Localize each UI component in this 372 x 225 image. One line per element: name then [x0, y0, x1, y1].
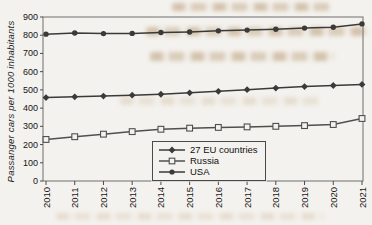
data-point-27-eu-countries [186, 89, 193, 96]
data-point-usa [129, 31, 134, 36]
data-point-russia [330, 122, 336, 128]
x-axis-tick-label: 2014 [155, 187, 166, 208]
x-axis-tick-label: 2013 [127, 187, 138, 208]
legend-label: 27 EU countries [190, 144, 258, 155]
data-point-russia [101, 131, 107, 137]
y-axis-tick-label: 500 [23, 85, 38, 95]
legend-marker-diamond-filled-icon [157, 145, 187, 155]
x-axis-tick-label: 2012 [98, 187, 109, 208]
y-axis-tick-label: 600 [23, 67, 38, 77]
x-axis-tick-label: 2010 [41, 187, 52, 208]
data-point-27-eu-countries [129, 92, 136, 99]
data-point-27-eu-countries [244, 86, 251, 93]
line-chart-plot: 0100200300400500600700800900201020112012… [0, 0, 372, 225]
data-point-russia [302, 123, 308, 129]
data-point-usa [72, 30, 77, 35]
x-axis-tick-label: 2020 [328, 187, 339, 208]
data-point-usa [244, 27, 249, 32]
data-point-27-eu-countries [272, 85, 279, 92]
data-point-russia [72, 134, 78, 140]
data-point-usa [302, 25, 307, 30]
y-axis-tick-label: 400 [23, 103, 38, 113]
x-axis-tick-label: 2016 [213, 187, 224, 208]
data-point-usa [43, 31, 48, 36]
data-point-27-eu-countries [100, 93, 107, 100]
y-axis-tick-label: 100 [23, 158, 38, 168]
y-axis-tick-label: 800 [23, 30, 38, 40]
y-axis-tick-label: 200 [23, 140, 38, 150]
chart-legend: 27 EU countriesRussiaUSA [152, 141, 266, 181]
data-point-russia [158, 126, 164, 132]
data-point-usa [101, 31, 106, 36]
legend-label: USA [190, 166, 210, 177]
data-point-russia [129, 129, 135, 135]
data-point-usa [187, 29, 192, 34]
data-point-27-eu-countries [215, 88, 222, 95]
diamond-filled-glyph [169, 146, 176, 153]
circle-filled-glyph [169, 169, 174, 174]
legend-entry: Russia [157, 155, 258, 166]
data-point-27-eu-countries [330, 82, 337, 89]
data-point-usa [158, 30, 163, 35]
y-axis-tick-label: 0 [33, 176, 38, 186]
data-point-usa [359, 21, 364, 26]
x-axis-tick-label: 2017 [242, 187, 253, 208]
data-point-russia [244, 124, 250, 130]
y-axis-tick-label: 700 [23, 48, 38, 58]
data-point-27-eu-countries [43, 94, 50, 101]
data-point-usa [273, 27, 278, 32]
series-line-usa [46, 24, 362, 34]
legend-label: Russia [190, 155, 219, 166]
square-open-glyph [169, 158, 175, 164]
data-point-27-eu-countries [158, 91, 165, 98]
data-point-russia [187, 125, 193, 131]
x-axis-tick-label: 2019 [299, 187, 310, 208]
y-axis-tick-label: 300 [23, 121, 38, 131]
x-axis-tick-label: 2015 [184, 187, 195, 208]
scanned-line-chart-figure: Passanger cars per 1000 inhabitants 0100… [0, 0, 372, 225]
data-point-27-eu-countries [301, 83, 308, 90]
data-point-russia [43, 137, 49, 143]
data-point-usa [331, 25, 336, 30]
y-axis-tick-label: 900 [23, 12, 38, 22]
legend-marker-circle-filled-icon [157, 167, 187, 177]
legend-entry: 27 EU countries [157, 144, 258, 155]
legend-entry: USA [157, 166, 258, 177]
data-point-usa [216, 28, 221, 33]
x-axis-tick-label: 2011 [69, 188, 80, 208]
series-line-27-eu-countries [46, 84, 362, 97]
x-axis-tick-label: 2018 [270, 187, 281, 208]
series-line-russia [46, 118, 362, 139]
data-point-27-eu-countries [359, 81, 366, 88]
data-point-russia [215, 125, 221, 131]
data-point-russia [273, 123, 279, 129]
data-point-russia [359, 116, 365, 122]
x-axis-tick-label: 2021 [357, 187, 368, 208]
legend-marker-square-open-icon [157, 156, 187, 166]
data-point-27-eu-countries [71, 93, 78, 100]
